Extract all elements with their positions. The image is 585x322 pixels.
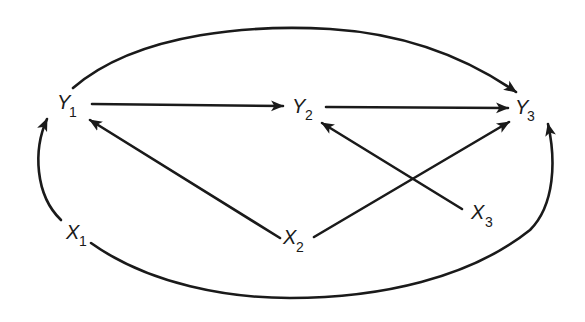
edge-y1-y2 (92, 104, 283, 106)
edge-y2-y3 (326, 107, 508, 108)
path-diagram: Y 1 Y 2 Y 3 X 1 X 2 X 3 (0, 0, 585, 322)
node-y3-subscript: 3 (527, 108, 535, 124)
node-x1-letter: X (65, 221, 80, 243)
edge-x2-y1 (90, 120, 280, 238)
node-y3: Y 3 (515, 96, 535, 124)
node-x1: X 1 (65, 221, 87, 249)
node-x3-letter: X (470, 201, 485, 223)
node-x2: X 2 (282, 226, 304, 255)
node-x2-letter: X (282, 226, 297, 248)
node-y1-subscript: 1 (69, 104, 77, 120)
node-y2-subscript: 2 (305, 107, 313, 123)
node-x2-subscript: 2 (296, 239, 304, 255)
node-x3-subscript: 3 (485, 214, 493, 230)
node-y2: Y 2 (292, 95, 313, 123)
node-x1-subscript: 1 (79, 233, 87, 249)
edge-x1-y1-curved (38, 119, 61, 220)
node-x3: X 3 (470, 201, 493, 230)
edge-x3-y2 (322, 123, 462, 209)
edge-y1-y3-curved (73, 28, 516, 92)
node-y1: Y 1 (57, 91, 77, 120)
